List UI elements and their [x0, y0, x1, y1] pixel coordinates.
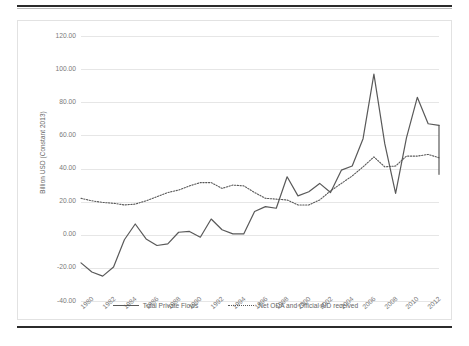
plot-lines: [81, 36, 439, 301]
y-tick-label: 80.00: [32, 99, 76, 106]
series-line: [81, 154, 439, 205]
y-tick-label: 0.00: [32, 231, 76, 238]
bottom-page-rule: [17, 326, 452, 328]
y-tick-label: 20.00: [32, 198, 76, 205]
legend-line-icon: [113, 302, 139, 309]
top-page-rule-faint: [17, 8, 452, 9]
y-tick-label: 40.00: [32, 165, 76, 172]
legend-label: Net ODA and Official AID received: [258, 302, 358, 309]
legend-label: Total Private Flows: [143, 302, 198, 309]
y-tick-label: 120.00: [32, 33, 76, 40]
legend-line-icon: [228, 302, 254, 309]
chart-area: Billion USD (Constant 2013) 120.00100.00…: [18, 21, 453, 321]
figure-frame: Billion USD (Constant 2013) 120.00100.00…: [17, 20, 452, 320]
series-line: [81, 74, 439, 276]
chart-legend: Total Private FlowsNet ODA and Official …: [18, 302, 453, 309]
y-tick-label: 60.00: [32, 132, 76, 139]
legend-item[interactable]: Net ODA and Official AID received: [228, 302, 358, 309]
y-tick-label: 100.00: [32, 66, 76, 73]
legend-item[interactable]: Total Private Flows: [113, 302, 198, 309]
y-tick-label: -20.00: [32, 264, 76, 271]
top-page-rule: [17, 5, 452, 7]
